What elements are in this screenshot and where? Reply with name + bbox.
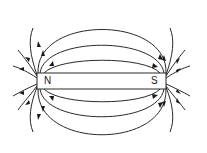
north-pole-label: N: [44, 76, 51, 86]
arrow-icon: [176, 68, 181, 73]
upper-field-loops: [38, 30, 166, 74]
bar-magnet: [37, 73, 166, 89]
arrow-icon: [152, 63, 158, 68]
north-pole-open-lines: [13, 28, 37, 132]
arrow-icon: [41, 50, 45, 56]
field-line-upper-inner: [44, 60, 160, 73]
field-line-upper-outer: [38, 30, 166, 74]
arrow-icon: [152, 94, 158, 99]
arrow-icon: [49, 61, 54, 66]
field-line-lower-middle: [40, 89, 164, 117]
arrow-icon: [49, 96, 54, 101]
south-pole-label: S: [151, 76, 158, 86]
field-line-lower-inner: [44, 89, 160, 102]
field-line-upper-middle: [40, 45, 164, 73]
south-pole-open-lines: [166, 28, 190, 132]
bar-magnet-field-diagram: [0, 0, 207, 153]
arrow-icon: [19, 67, 24, 71]
arrow-icon: [37, 114, 41, 120]
arrow-icon: [37, 41, 41, 47]
lower-field-loops: [38, 89, 166, 135]
